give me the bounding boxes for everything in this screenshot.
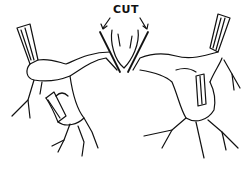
rhizome-illustration bbox=[0, 0, 250, 170]
rhizome-division-diagram: CUT bbox=[0, 0, 250, 170]
left-leaf-fan bbox=[17, 24, 38, 64]
left-rhizome bbox=[12, 52, 117, 156]
cut-label: CUT bbox=[109, 3, 143, 16]
cut-arrows bbox=[101, 18, 148, 29]
right-leaf-fan bbox=[210, 14, 230, 52]
right-rhizome bbox=[133, 52, 240, 158]
